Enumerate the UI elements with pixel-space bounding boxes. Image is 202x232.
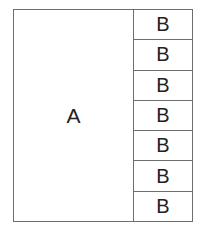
main-pane-label: A bbox=[66, 104, 80, 128]
side-cell: B bbox=[134, 10, 192, 40]
side-cell-label: B bbox=[156, 104, 169, 127]
side-cell-label: B bbox=[156, 13, 169, 36]
side-cell: B bbox=[134, 71, 192, 101]
side-cell: B bbox=[134, 101, 192, 131]
side-cell: B bbox=[134, 161, 192, 191]
side-cell: B bbox=[134, 192, 192, 221]
side-cell-label: B bbox=[156, 134, 169, 157]
side-cell: B bbox=[134, 131, 192, 161]
side-cell-label: B bbox=[156, 165, 169, 188]
main-pane-a: A bbox=[14, 10, 134, 221]
layout-diagram: A B B B B B B B bbox=[13, 9, 193, 222]
side-cell-label: B bbox=[156, 74, 169, 97]
side-cell: B bbox=[134, 40, 192, 70]
side-cell-label: B bbox=[156, 43, 169, 66]
side-column-b: B B B B B B B bbox=[134, 10, 192, 221]
side-cell-label: B bbox=[156, 195, 169, 218]
